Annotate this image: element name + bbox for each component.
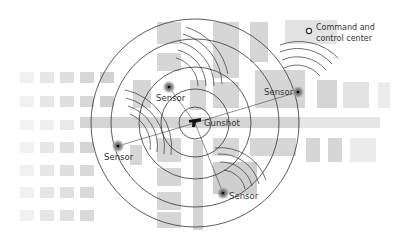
sensor-right: Sensor — [264, 86, 304, 98]
sensor-label: Sensor — [156, 93, 186, 103]
command-center-icon — [306, 28, 311, 33]
legend-line-2: control center — [316, 34, 373, 43]
sensor-left: Sensor — [104, 140, 134, 162]
legend-line-1: Command and — [316, 23, 375, 32]
sensor-label: Sensor — [264, 87, 294, 97]
sensor-label: Sensor — [229, 191, 259, 201]
gunshot-detection-diagram: Sensor Sensor Sensor Sensor Gunshot Comm… — [0, 0, 407, 244]
sensor-label: Sensor — [104, 152, 134, 162]
gunshot-label: Gunshot — [204, 118, 240, 128]
